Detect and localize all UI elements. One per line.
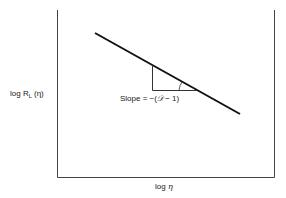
slope-angle-arc: [179, 82, 182, 91]
x-label-var: η: [168, 182, 173, 191]
y-label-suffix: (η): [32, 89, 44, 98]
y-axis-label: log RL (η): [10, 89, 44, 99]
slope-label-suffix: − 1): [163, 94, 179, 103]
x-axis-label: log η: [155, 182, 173, 191]
slope-label-prefix: Slope = −(: [120, 94, 157, 103]
slope-label: Slope = −(𝒟 − 1): [120, 94, 179, 104]
x-label-text: log: [155, 182, 168, 191]
y-label-text: log R: [10, 89, 29, 98]
